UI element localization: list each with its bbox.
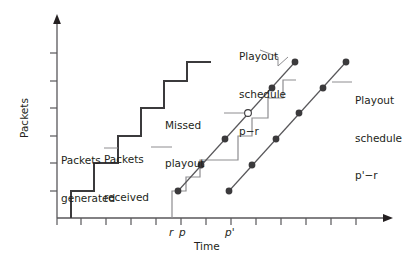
playout-pp-r-line2: schedule — [355, 132, 402, 145]
x-tick-label-p-prime: p' — [225, 226, 235, 239]
playout-marker-pp-r-5 — [320, 85, 327, 92]
x-tick-label-p: p — [179, 226, 186, 239]
x-tick-label-r: r — [169, 226, 173, 239]
playout-marker-p-r-6 — [292, 59, 299, 66]
missed-playout-line1: Missed — [165, 119, 204, 132]
missed-playout-annotation: Missed playout — [165, 94, 204, 194]
playout-pp-r-line1: Playout — [355, 94, 402, 107]
playout-marker-p-r-3 — [222, 136, 229, 143]
playout-pp-r-line3: p'−r — [355, 169, 402, 182]
playout-p-r-line1: Playout — [239, 50, 286, 63]
playout-schedule-p-r-annotation: Playout schedule p−r — [239, 25, 286, 163]
packets-received-annotation: Packets received — [104, 128, 149, 228]
x-axis-arrowhead — [383, 214, 393, 222]
playout-p-r-line3: p−r — [239, 125, 286, 138]
packets-received-line1: Packets — [104, 153, 149, 166]
y-axis-arrowhead — [53, 14, 61, 24]
missed-playout-line2: playout — [165, 157, 204, 170]
playout-marker-pp-r-2 — [249, 162, 256, 169]
y-axis-label: Packets — [18, 88, 30, 148]
x-axis-label: Time — [194, 240, 220, 253]
packets-received-line2: received — [104, 191, 149, 204]
playout-schedule-pprime-r-annotation: Playout schedule p'−r — [355, 69, 402, 207]
playout-p-r-line2: schedule — [239, 88, 286, 101]
playout-marker-pp-r-4 — [296, 110, 303, 117]
playout-marker-pp-r-1 — [226, 188, 233, 195]
playout-marker-pp-r-6 — [343, 59, 350, 66]
y-axis-ticks — [50, 53, 57, 191]
packet-playout-figure: Packets Time Packets generated Packets r… — [0, 0, 410, 266]
